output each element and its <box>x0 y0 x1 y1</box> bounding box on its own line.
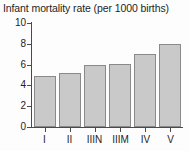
y-axis-tick-label: 0 <box>0 122 26 132</box>
y-axis-tick <box>27 23 32 24</box>
x-axis-tick <box>120 128 121 132</box>
x-axis-tick <box>170 128 171 132</box>
y-axis-tick <box>27 85 32 86</box>
bar <box>159 44 181 127</box>
chart-figure: Infant mortality rate (per 1000 births) … <box>0 0 189 151</box>
x-axis-tick-label: IIIM <box>108 134 133 145</box>
y-axis-tick <box>27 106 32 107</box>
plot-area: 0246810 IIIIIINIIIMIVV <box>0 0 189 151</box>
y-axis-line <box>31 22 32 128</box>
bar <box>84 65 106 127</box>
bar <box>34 76 56 127</box>
x-axis-tick <box>145 128 146 132</box>
y-axis-tick-label: 2 <box>0 101 26 111</box>
bar <box>59 73 81 127</box>
x-axis-tick-label: V <box>158 134 183 145</box>
bar <box>134 54 156 127</box>
y-axis-tick <box>27 44 32 45</box>
x-axis-tick-label: IV <box>133 134 158 145</box>
y-axis-tick-label: 8 <box>0 39 26 49</box>
y-axis-tick-label: 10 <box>0 18 26 28</box>
x-axis-tick <box>95 128 96 132</box>
y-axis-tick <box>27 127 32 128</box>
x-axis-tick-label: IIIN <box>82 134 107 145</box>
bar <box>109 64 131 127</box>
y-axis-tick <box>27 65 32 66</box>
x-axis-tick <box>45 128 46 132</box>
y-axis-tick-label: 6 <box>0 60 26 70</box>
x-axis-tick-label: I <box>32 134 57 145</box>
x-axis-line <box>31 127 183 128</box>
x-axis-tick <box>70 128 71 132</box>
y-axis-tick-label: 4 <box>0 80 26 90</box>
x-axis-tick-label: II <box>57 134 82 145</box>
